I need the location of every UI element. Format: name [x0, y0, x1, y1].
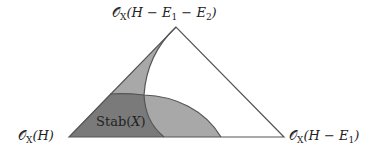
- sheaf-symbol: 𝒪: [289, 128, 297, 143]
- arg: ): [354, 128, 359, 143]
- arg: ): [212, 5, 217, 20]
- arg: − E: [177, 5, 206, 20]
- stab-text: Stab(: [96, 114, 131, 129]
- right-vertex-label: 𝒪X(H − E1): [289, 128, 359, 145]
- left-vertex-label: 𝒪X(H): [18, 128, 54, 145]
- sheaf-symbol: 𝒪: [18, 128, 26, 143]
- diagram: 𝒪X(H − E1 − E2) 𝒪X(H) 𝒪X(H − E1) Stab(X): [0, 0, 387, 158]
- arg: (H − E: [126, 5, 171, 20]
- paren: ): [141, 114, 146, 129]
- variable: X: [131, 114, 140, 129]
- top-vertex-label: 𝒪X(H − E1 − E2): [112, 5, 217, 22]
- arg: (H): [32, 128, 53, 143]
- arg: (H − E: [303, 128, 348, 143]
- sheaf-symbol: 𝒪: [112, 5, 120, 20]
- stab-label: Stab(X): [96, 114, 146, 129]
